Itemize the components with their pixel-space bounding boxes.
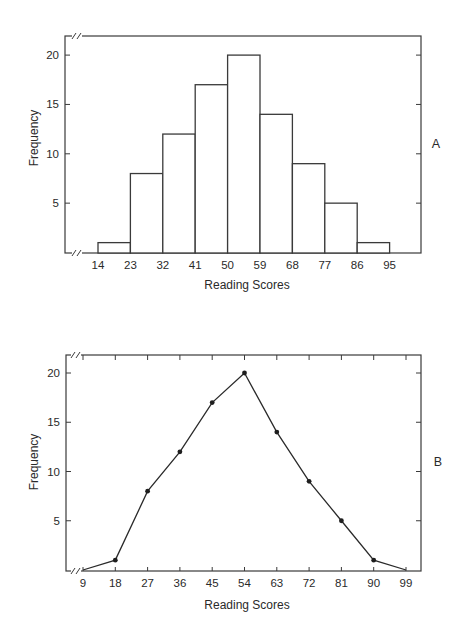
histogram-bar (163, 134, 195, 253)
chart-b-x-axis-title: Reading Scores (204, 598, 289, 612)
histogram-bar (260, 114, 292, 253)
chart-b-xtick-label: 63 (270, 577, 283, 589)
chart-b-xtick-label: 99 (400, 577, 413, 589)
chart-b-ytick-label: 5 (54, 515, 60, 527)
chart-b-panel-label: B (434, 455, 442, 469)
histogram-bar (292, 164, 324, 253)
histogram-bar (130, 174, 162, 253)
chart-a-xtick-label: 41 (189, 259, 202, 271)
histogram-chart-a: 510152014233241505968778695Reading Score… (27, 33, 441, 292)
frequency-polygon-chart-b: 9182736455463728190995101520Reading Scor… (27, 352, 442, 612)
data-point-marker (210, 400, 215, 405)
chart-b-xtick-label: 72 (303, 577, 316, 589)
chart-a-ytick-label: 5 (53, 197, 59, 209)
chart-a-xtick-label: 23 (124, 259, 137, 271)
data-point-marker (113, 558, 118, 563)
chart-b-xtick-label: 27 (141, 577, 154, 589)
data-point-marker (145, 489, 150, 494)
chart-b-xtick-label: 54 (238, 577, 251, 589)
chart-a-xtick-label: 86 (351, 259, 364, 271)
chart-a-ytick-label: 20 (46, 49, 59, 61)
data-point-marker (274, 430, 279, 435)
chart-a-xtick-label: 32 (156, 259, 169, 271)
frequency-polygon-line (83, 373, 406, 570)
chart-a-xtick-label: 95 (383, 259, 396, 271)
chart-b-xtick-label: 90 (367, 577, 380, 589)
chart-a-xtick-label: 59 (254, 259, 267, 271)
figure: 510152014233241505968778695Reading Score… (0, 0, 465, 640)
chart-a-ytick-label: 15 (46, 98, 59, 110)
histogram-bar (228, 55, 260, 253)
histogram-bar (195, 85, 227, 253)
chart-a-ytick-label: 10 (46, 148, 59, 160)
chart-b-xtick-label: 81 (335, 577, 348, 589)
chart-b-xtick-label: 18 (109, 577, 122, 589)
chart-b-xtick-label: 9 (80, 577, 86, 589)
chart-b-ytick-label: 20 (47, 367, 60, 379)
chart-b-xtick-label: 36 (174, 577, 187, 589)
chart-b-frame (66, 355, 421, 571)
chart-a-x-axis-title: Reading Scores (204, 278, 289, 292)
chart-a-xtick-label: 77 (318, 259, 331, 271)
chart-a-xtick-label: 68 (286, 259, 299, 271)
data-point-marker (307, 479, 312, 484)
chart-a-y-axis-title: Frequency (27, 110, 41, 167)
data-point-marker (178, 449, 183, 454)
chart-a-panel-label: A (432, 137, 441, 151)
chart-a-xtick-label: 14 (92, 259, 105, 271)
data-point-marker (371, 558, 376, 563)
histogram-bar (325, 203, 357, 253)
histogram-bar (357, 243, 389, 253)
chart-b-ytick-label: 10 (47, 466, 60, 478)
data-point-marker (242, 371, 247, 376)
data-point-marker (339, 518, 344, 523)
chart-a-xtick-label: 50 (221, 259, 234, 271)
chart-b-xtick-label: 45 (206, 577, 219, 589)
chart-b-ytick-label: 15 (47, 416, 60, 428)
histogram-bar (98, 243, 130, 253)
chart-b-y-axis-title: Frequency (27, 434, 41, 491)
